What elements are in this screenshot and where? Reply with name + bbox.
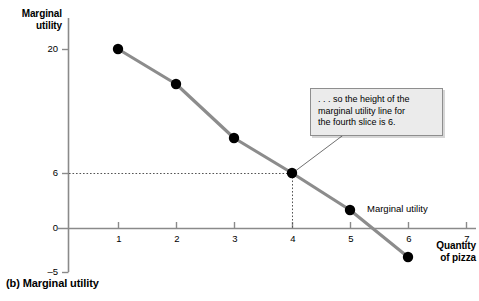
- marginal-utility-line: [118, 49, 408, 257]
- callout-leader-line: [294, 133, 346, 172]
- figure-marginal-utility: Marginal utility Quantity of pizza 20 6 …: [0, 0, 479, 301]
- y-tick-label-20: 20: [32, 44, 58, 54]
- data-point-3: [229, 133, 239, 143]
- data-point-2: [171, 79, 181, 89]
- callout-line-2: marginal utility line for: [318, 106, 436, 118]
- data-point-5: [345, 205, 355, 215]
- x-tick-label-3: 3: [225, 234, 245, 244]
- x-tick-label-1: 1: [109, 234, 129, 244]
- data-point-1: [113, 44, 123, 54]
- y-tick-label-minus5: –5: [32, 267, 58, 277]
- x-tick-label-4: 4: [283, 234, 303, 244]
- y-tick-label-0: 0: [32, 223, 58, 233]
- callout-annotation: . . . so the height of the marginal util…: [310, 88, 443, 136]
- x-tick-label-2: 2: [167, 234, 187, 244]
- x-axis-title-line2: of pizza: [418, 252, 476, 264]
- y-tick-label-6: 6: [32, 168, 58, 178]
- callout-line-1: . . . so the height of the: [318, 94, 436, 106]
- x-tick-label-6: 6: [399, 234, 419, 244]
- figure-caption: (b) Marginal utility: [6, 277, 99, 289]
- y-axis-title: Marginal utility: [8, 8, 62, 31]
- chart-canvas: [0, 0, 479, 301]
- data-point-6: [403, 252, 413, 262]
- y-axis-title-line2: utility: [8, 20, 62, 32]
- x-tick-label-7: 7: [457, 234, 477, 244]
- y-axis-title-line1: Marginal: [8, 8, 62, 20]
- series-label-marginal-utility: Marginal utility: [367, 203, 428, 214]
- data-point-4: [287, 168, 297, 178]
- callout-line-3: the fourth slice is 6.: [318, 117, 436, 129]
- x-tick-label-5: 5: [341, 234, 361, 244]
